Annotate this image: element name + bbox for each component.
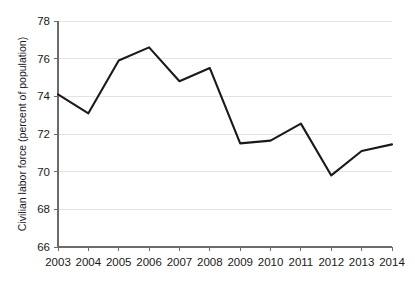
x-tick-label: 2009 [227,256,253,268]
chart-background [0,0,415,283]
y-tick-label: 78 [37,15,50,27]
x-tick-label: 2004 [76,256,102,268]
x-tick-label: 2006 [136,256,162,268]
x-tick-label: 2007 [167,256,193,268]
x-tick-label: 2005 [106,256,132,268]
y-axis-title: Civilian labor force (percent of populat… [16,37,28,231]
chart-container: 66687072747678 2003200420052006200720082… [0,0,415,283]
x-tick-label: 2008 [197,256,223,268]
x-tick-label: 2003 [45,256,71,268]
y-tick-label: 76 [37,53,50,65]
x-tick-label: 2011 [289,256,314,268]
x-tick-label: 2014 [379,256,405,268]
y-tick-label: 74 [37,90,50,102]
y-tick-label: 66 [37,241,50,253]
x-tick-label: 2013 [349,256,375,268]
line-chart: 66687072747678 2003200420052006200720082… [0,0,415,283]
y-tick-label: 72 [37,128,50,140]
x-tick-label: 2010 [258,256,284,268]
x-tick-label: 2012 [318,256,344,268]
y-tick-label: 68 [37,203,50,215]
y-tick-label: 70 [37,166,50,178]
